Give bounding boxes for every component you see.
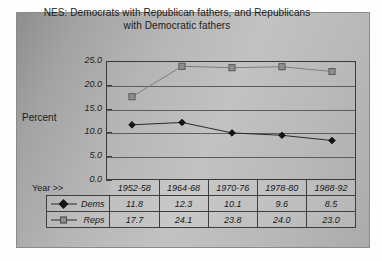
series-lines [107,62,357,181]
plot-area [106,61,356,180]
square-marker-icon [60,217,67,224]
table-row-header: 1952-58 1964-68 1970-76 1978-80 1988-92 [47,180,356,196]
legend-line-reps [51,219,77,220]
cell-reps-4: 23.0 [306,212,355,228]
data-point-reps-2 [229,65,235,71]
data-point-reps-1 [179,63,185,69]
cell-reps-3: 24.0 [257,212,306,228]
column-header-3: 1978-80 [257,180,306,196]
column-header-0: 1952-58 [110,180,159,196]
y-tick-label-10: 10.0 [58,126,102,136]
table-corner-cell [47,180,110,196]
legend-label-reps: Reps [83,215,104,225]
legend-item-dems: Dems [47,196,110,212]
diamond-marker-icon [59,199,69,209]
cell-reps-2: 23.8 [208,212,257,228]
legend-line-dems [51,203,77,204]
cell-dems-0: 11.8 [110,196,159,212]
y-tick-label-5: 5.0 [58,150,102,160]
chart-title-line-2: with Democratic fathers [28,19,326,32]
legend-label-dems: Dems [81,199,105,209]
data-point-reps-3 [279,64,285,70]
chart-title-line-1: NES: Democrats with Republican fathers, … [28,6,326,19]
chart-screenshot: NES: Democrats with Republican fathers, … [0,0,382,261]
data-point-reps-4 [329,68,335,74]
column-header-1: 1964-68 [159,180,208,196]
data-point-reps-0 [129,94,135,100]
data-table: 1952-58 1964-68 1970-76 1978-80 1988-92 … [46,180,356,228]
data-point-dems-4 [329,137,336,144]
cell-dems-4: 8.5 [306,196,355,212]
y-tick-label-20: 20.0 [58,79,102,89]
data-point-dems-0 [129,122,136,129]
legend-item-reps: Reps [47,212,110,228]
cell-dems-3: 9.6 [257,196,306,212]
data-point-dems-2 [229,130,236,137]
data-point-dems-3 [279,132,286,139]
column-header-2: 1970-76 [208,180,257,196]
y-axis-tick-labels: 25.0 20.0 15.0 10.0 5.0 0.0 [58,61,102,180]
data-point-dems-1 [179,119,186,126]
cell-dems-2: 10.1 [208,196,257,212]
cell-reps-1: 24.1 [159,212,208,228]
cell-dems-1: 12.3 [159,196,208,212]
y-tick-label-15: 15.0 [58,103,102,113]
table-row-reps: Reps 17.7 24.1 23.8 24.0 23.0 [47,212,356,228]
table-row-dems: Dems 11.8 12.3 10.1 9.6 8.5 [47,196,356,212]
y-axis-label: Percent [22,112,56,123]
cell-reps-0: 17.7 [110,212,159,228]
y-tick-label-25: 25.0 [58,55,102,65]
chart-title: NES: Democrats with Republican fathers, … [28,6,326,32]
column-header-4: 1988-92 [306,180,355,196]
